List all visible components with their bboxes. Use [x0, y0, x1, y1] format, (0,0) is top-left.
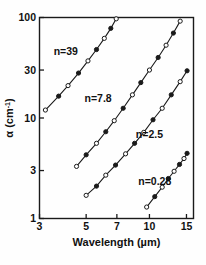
x-tick-label-3: 3 — [37, 220, 43, 232]
data-point — [185, 69, 189, 73]
x-tick-label-7: 7 — [114, 220, 120, 232]
data-point — [171, 31, 175, 35]
data-point — [185, 151, 189, 155]
data-point — [94, 184, 98, 188]
data-point — [172, 169, 176, 173]
data-point — [151, 118, 155, 122]
y-tick-label-30: 30 — [24, 64, 36, 76]
data-point — [182, 156, 186, 160]
data-point — [145, 205, 149, 209]
data-point — [153, 195, 157, 199]
data-point — [164, 43, 168, 47]
x-tick-label-10: 10 — [144, 220, 156, 232]
y-tick-label-10: 10 — [24, 112, 36, 124]
data-point — [121, 106, 125, 110]
y-axis-title: α (cm-1) — [3, 98, 15, 138]
data-point — [57, 94, 61, 98]
series-annotation-n-39: n=39 — [54, 45, 78, 57]
series-n-7-8: n=7.8 — [74, 19, 182, 168]
log-log-absorption-chart: 3571015131030100Wavelength (µm)α (cm-1)n… — [0, 0, 206, 265]
data-point — [133, 141, 137, 145]
data-point — [74, 164, 78, 168]
y-tick-label-1: 1 — [30, 212, 36, 224]
y-tick-label-3: 3 — [30, 164, 36, 176]
data-point — [113, 163, 117, 167]
data-point — [66, 84, 70, 88]
data-point — [104, 130, 108, 134]
x-axis-title: Wavelength (µm) — [73, 236, 161, 248]
data-point — [130, 93, 134, 97]
x-tick-label-15: 15 — [181, 220, 193, 232]
data-point — [104, 173, 108, 177]
data-point — [112, 119, 116, 123]
data-point — [94, 141, 98, 145]
data-point — [139, 81, 143, 85]
data-point — [147, 68, 151, 72]
data-point — [43, 108, 47, 112]
x-tick-label-5: 5 — [83, 220, 89, 232]
data-point — [156, 55, 160, 59]
series-annotation-n-0-28: n=0.28 — [138, 175, 171, 187]
data-point — [84, 153, 88, 157]
data-point — [86, 59, 90, 63]
data-point — [114, 17, 118, 21]
data-point — [102, 36, 106, 40]
data-point — [169, 93, 173, 97]
series-n-0-28: n=0.28 — [138, 151, 189, 209]
data-point — [76, 71, 80, 75]
data-point — [109, 26, 113, 30]
data-point — [123, 152, 127, 156]
figure-container: 3571015131030100Wavelength (µm)α (cm-1)n… — [0, 0, 206, 265]
series-annotation-n-7-8: n=7.8 — [85, 92, 112, 104]
data-point — [160, 106, 164, 110]
data-point — [178, 19, 182, 23]
data-point — [84, 193, 88, 197]
series-annotation-n-2-5: n=2.5 — [136, 128, 163, 140]
data-point — [177, 162, 181, 166]
y-tick-label-100: 100 — [18, 11, 36, 23]
data-point — [94, 47, 98, 51]
data-point — [178, 80, 182, 84]
